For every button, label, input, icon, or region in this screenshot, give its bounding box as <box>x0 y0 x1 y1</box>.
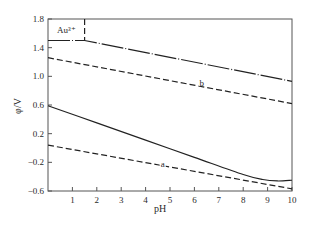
x-tick-label: 6 <box>192 195 197 205</box>
plot-border <box>48 19 292 191</box>
region-label: Au³⁺ <box>57 25 76 35</box>
x-tick-label: 7 <box>217 195 222 205</box>
y-tick-label: 1.4 <box>33 43 45 53</box>
y-tick-label: 1.8 <box>33 14 45 24</box>
y-tick-label: −0.2 <box>28 157 44 167</box>
axis-ticks: 123456789101.81.41.00.60.2−0.2−0.6 <box>28 14 297 205</box>
plot-frame <box>48 19 292 191</box>
data-series <box>48 19 292 189</box>
y-tick-label: −0.6 <box>28 186 45 196</box>
series-au3-au-boundary <box>48 41 292 82</box>
x-tick-label: 3 <box>119 195 124 205</box>
line-label-b: b <box>199 78 204 88</box>
y-tick-label: 0.2 <box>33 129 44 139</box>
series-solid-boundary <box>48 106 292 181</box>
annotations: Au³⁺ba <box>57 25 205 170</box>
series-a <box>48 145 292 189</box>
x-tick-label: 1 <box>70 195 75 205</box>
x-tick-label: 5 <box>168 195 173 205</box>
y-tick-label: 0.6 <box>33 100 45 110</box>
line-label-a: a <box>161 159 165 169</box>
y-tick-label: 1.0 <box>33 71 45 81</box>
x-tick-label: 8 <box>241 195 246 205</box>
x-axis-label: pH <box>154 203 166 214</box>
y-axis-label: φ/V <box>12 97 23 114</box>
potential-ph-chart: 123456789101.81.41.00.60.2−0.2−0.6 Au³⁺b… <box>0 0 309 229</box>
x-tick-label: 10 <box>288 195 298 205</box>
series-b <box>48 58 292 104</box>
x-tick-label: 2 <box>95 195 100 205</box>
x-tick-label: 9 <box>265 195 270 205</box>
x-tick-label: 4 <box>143 195 148 205</box>
